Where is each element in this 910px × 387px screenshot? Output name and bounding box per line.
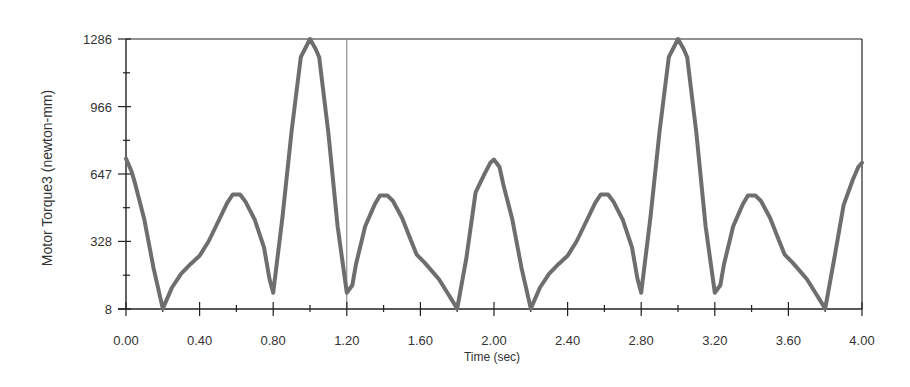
x-tick-label: 0.40 xyxy=(187,333,212,348)
x-tick-label: 1.20 xyxy=(334,333,359,348)
y-tick-label: 8 xyxy=(105,302,112,317)
motor-torque-chart: 0.000.400.801.201.602.002.402.803.203.60… xyxy=(0,0,910,387)
x-axis-title: Time (sec) xyxy=(464,350,520,364)
y-tick-label: 647 xyxy=(90,167,112,182)
series-layer xyxy=(126,39,862,309)
x-tick-label: 2.00 xyxy=(481,333,506,348)
x-tick-label: 3.60 xyxy=(776,333,801,348)
x-tick-label: 4.00 xyxy=(849,333,874,348)
y-tick-label: 966 xyxy=(90,100,112,115)
y-axis-ticks: 83286479661286 xyxy=(83,32,131,317)
y-tick-label: 328 xyxy=(90,234,112,249)
series-line-motor-torque3 xyxy=(126,39,862,309)
x-tick-label: 2.80 xyxy=(629,333,654,348)
x-tick-label: 0.00 xyxy=(113,333,138,348)
plot-frame xyxy=(118,39,862,309)
x-tick-label: 0.80 xyxy=(261,333,286,348)
x-tick-label: 2.40 xyxy=(555,333,580,348)
x-tick-label: 1.60 xyxy=(408,333,433,348)
x-tick-label: 3.20 xyxy=(702,333,727,348)
y-tick-label: 1286 xyxy=(83,32,112,47)
y-axis-title: Motor Torque3 (newton-mm) xyxy=(39,90,55,266)
